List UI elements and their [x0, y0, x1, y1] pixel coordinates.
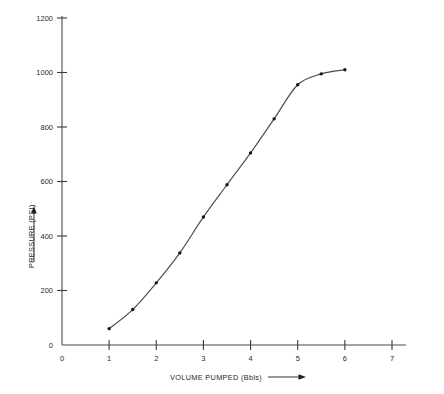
y-tick-label: 0: [49, 341, 53, 350]
data-point: [249, 151, 252, 154]
data-point: [225, 183, 228, 186]
y-axis-title: PRESSURE (PSI): [27, 204, 36, 268]
data-point: [178, 251, 181, 254]
data-point: [202, 215, 205, 218]
x-axis-group: 01234567: [60, 340, 406, 363]
pressure-volume-chart: 020040060080010001200 01234567 PRESSURE …: [0, 0, 444, 394]
series-line-pressure: [109, 70, 345, 329]
x-tick-label: 6: [343, 354, 347, 363]
data-point: [320, 72, 323, 75]
x-tick-label: 5: [296, 354, 300, 363]
y-tick-label: 800: [40, 123, 53, 132]
y-tick-label: 1200: [36, 14, 53, 23]
x-tick-label: 4: [248, 354, 252, 363]
y-tick-label: 1000: [36, 68, 53, 77]
y-tick-label: 600: [40, 177, 53, 186]
data-point: [155, 281, 158, 284]
y-axis-title-group: PRESSURE (PSI): [27, 204, 37, 268]
chart-canvas: 020040060080010001200 01234567 PRESSURE …: [0, 0, 444, 394]
y-axis-tick-labels: 020040060080010001200: [36, 14, 53, 350]
x-axis-title: VOLUME PUMPED (Bbls): [170, 373, 262, 382]
x-tick-label: 0: [60, 354, 64, 363]
x-axis-title-group: VOLUME PUMPED (Bbls): [170, 373, 306, 382]
data-point: [296, 83, 299, 86]
data-point: [272, 117, 275, 120]
x-tick-label: 7: [390, 354, 394, 363]
y-axis-group: 020040060080010001200: [36, 14, 67, 350]
data-point: [131, 308, 134, 311]
data-point: [343, 68, 346, 71]
series-markers-pressure: [107, 68, 346, 330]
y-tick-label: 400: [40, 232, 53, 241]
plot-series-group: [107, 68, 346, 330]
y-tick-label: 200: [40, 286, 53, 295]
data-point: [107, 327, 110, 330]
x-tick-label: 3: [201, 354, 205, 363]
x-axis-tick-labels: 01234567: [60, 354, 394, 363]
x-tick-label: 1: [107, 354, 111, 363]
x-axis-arrow-head: [299, 374, 307, 379]
x-tick-label: 2: [154, 354, 158, 363]
